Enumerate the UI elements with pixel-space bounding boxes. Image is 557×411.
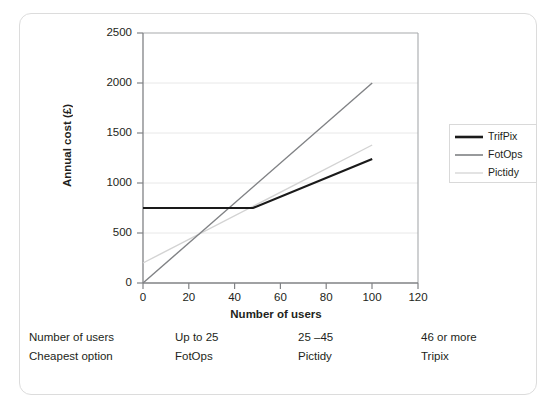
plot-frame — [143, 33, 418, 283]
x-tick-label-80: 80 — [306, 291, 346, 303]
axis-lines — [143, 33, 418, 283]
table-cell-row2-col2: Pictidy — [298, 350, 332, 362]
table-cell-row1-col1: Up to 25 — [175, 331, 218, 343]
y-tick-label-2000: 2000 — [92, 76, 132, 88]
y-tick-label-1000: 1000 — [92, 176, 132, 188]
legend-swatch-pictidy — [454, 164, 484, 182]
series-pictidy — [143, 145, 372, 263]
table-cell-row1-col3: 46 or more — [421, 331, 477, 343]
x-tick-label-60: 60 — [260, 291, 300, 303]
table-cell-row2-col3: Tripix — [421, 350, 449, 362]
legend-item-fotops[interactable]: FotOps — [454, 145, 522, 164]
legend-item-trifpix[interactable]: TrifPix — [454, 127, 517, 146]
x-axis-title-text: Number of users — [230, 308, 321, 320]
gridlines — [143, 83, 418, 233]
x-tick-label-100: 100 — [352, 291, 392, 303]
x-tick-label-40: 40 — [215, 291, 255, 303]
legend-label-pictidy: Pictidy — [488, 167, 519, 178]
y-tick-label-500: 500 — [92, 226, 132, 238]
y-tick-label-1500: 1500 — [92, 126, 132, 138]
table-cell-row2-header: Cheapest option — [29, 350, 113, 362]
chart-legend: TrifPix FotOps Pictidy — [449, 124, 537, 183]
y-tick-label-0: 0 — [92, 276, 132, 288]
legend-label-trifpix: TrifPix — [488, 131, 517, 142]
legend-item-pictidy[interactable]: Pictidy — [454, 163, 519, 182]
legend-line-trifpix — [454, 132, 484, 142]
x-tick-label-0: 0 — [123, 291, 163, 303]
table-cell-row1-col2: 25 –45 — [298, 331, 333, 343]
legend-swatch-trifpix — [454, 128, 484, 146]
legend-line-fotops — [454, 150, 484, 160]
legend-swatch-fotops — [454, 146, 484, 164]
y-tick-label-2500: 2500 — [92, 26, 132, 38]
y-tick-marks — [137, 33, 143, 283]
x-tick-marks — [143, 283, 418, 289]
y-axis-title: Annual cost (£) — [61, 104, 73, 187]
x-tick-label-20: 20 — [169, 291, 209, 303]
table-cell-row1-header: Number of users — [29, 331, 114, 343]
table-row: Number of users Up to 25 25 –45 46 or mo… — [0, 331, 557, 350]
x-tick-label-120: 120 — [398, 291, 438, 303]
chart-figure: 2500 2000 1500 1000 500 0 0 20 40 60 80 … — [0, 0, 557, 411]
legend-line-pictidy — [454, 168, 484, 178]
table-cell-row2-col1: FotOps — [175, 350, 213, 362]
summary-table: Number of users Up to 25 25 –45 46 or mo… — [0, 331, 557, 377]
legend-label-fotops: FotOps — [488, 149, 522, 160]
table-row: Cheapest option FotOps Pictidy Tripix — [0, 350, 557, 369]
x-axis-title: Number of users — [0, 308, 557, 320]
